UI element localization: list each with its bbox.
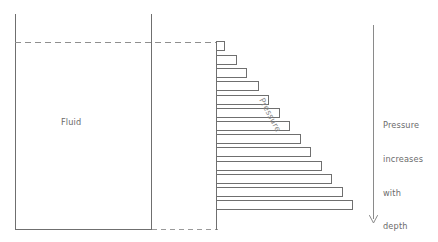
pressure-bar-group <box>217 42 353 210</box>
caption-line-3: with <box>383 188 423 199</box>
depth-annotation-caption: Pressure increases with depth <box>383 98 423 242</box>
pressure-bar <box>217 162 322 171</box>
pressure-bar <box>217 175 332 184</box>
pressure-bar <box>217 42 225 51</box>
pressure-bar <box>217 148 311 157</box>
caption-line-1: Pressure <box>383 120 423 131</box>
pressure-bar <box>217 201 353 210</box>
pressure-bar <box>217 82 259 91</box>
pressure-bar <box>217 135 301 144</box>
diagram-canvas: Fluid Pressure Pressure increases with d… <box>0 0 438 242</box>
pressure-bar <box>217 188 343 197</box>
caption-line-4: depth <box>383 221 423 232</box>
fluid-label: Fluid <box>61 117 81 128</box>
caption-line-2: increases <box>383 154 423 165</box>
pressure-bar <box>217 56 237 65</box>
pressure-bar <box>217 69 247 78</box>
